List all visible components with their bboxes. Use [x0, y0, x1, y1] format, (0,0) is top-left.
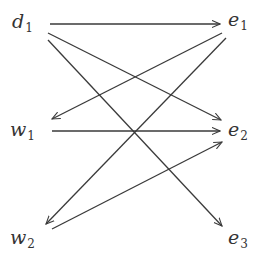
node-base: d: [12, 10, 24, 32]
edge-w2-to-e2: [52, 142, 222, 229]
bipartite-graph-diagram: d1 w1 w2 e1 e2 e3: [0, 0, 266, 264]
node-subscript: 1: [25, 21, 33, 35]
edges-layer: [0, 0, 266, 264]
node-base: w: [10, 118, 26, 140]
node-base: w: [10, 226, 26, 248]
node-subscript: 2: [240, 129, 248, 143]
node-base: e: [228, 8, 239, 30]
node-w2-label: w2: [10, 228, 35, 250]
node-subscript: 2: [27, 237, 35, 251]
node-e2-label: e2: [228, 120, 248, 142]
node-subscript: 1: [240, 19, 248, 33]
node-base: e: [228, 118, 239, 140]
node-subscript: 1: [27, 129, 35, 143]
node-w1-label: w1: [10, 120, 35, 142]
node-e3-label: e3: [228, 228, 248, 250]
node-subscript: 3: [240, 237, 248, 251]
node-d1-label: d1: [12, 12, 33, 34]
node-base: e: [228, 226, 239, 248]
edge-d1-to-e3: [48, 40, 222, 226]
node-e1-label: e1: [228, 10, 248, 32]
edge-e1-to-w1: [52, 33, 222, 119]
